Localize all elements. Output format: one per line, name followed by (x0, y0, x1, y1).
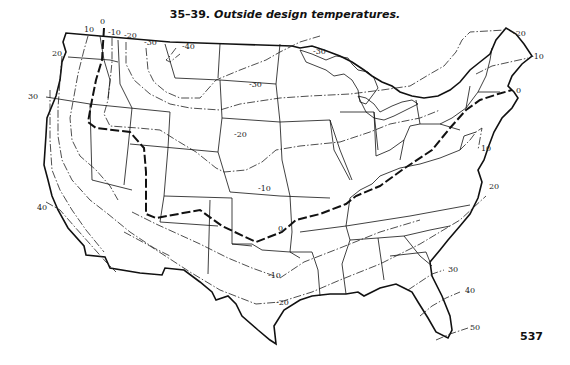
isotherm-20-west (58, 56, 170, 256)
isotherm-30-east (408, 270, 444, 290)
isotherm-label: 30 (28, 92, 38, 101)
state-boundaries (46, 36, 500, 296)
isotherm-label: 20 (52, 49, 62, 58)
isotherm-label: 40 (465, 286, 475, 295)
isotherm-40-west (46, 202, 116, 272)
isotherm-label: 50 (470, 323, 480, 332)
isotherm-label: 40 (37, 203, 47, 212)
isotherm-label: -10 (268, 271, 281, 280)
isotherm-label: -30 (249, 80, 262, 89)
isotherm-label: 10 (84, 25, 94, 34)
isotherm-label: -30 (144, 38, 157, 47)
isotherm-label: -40 (182, 42, 195, 51)
page-number: 537 (520, 330, 543, 343)
isotherm-40-east (420, 292, 460, 316)
isotherm-neg10-south (132, 212, 420, 278)
isotherm-neg10-west (104, 38, 440, 172)
isotherm-label: -10 (531, 52, 544, 61)
isotherm-label: 20 (489, 182, 499, 191)
isotherm-label: 0 (516, 86, 521, 95)
isotherm-label: -10 (258, 184, 271, 193)
isotherm-label: 10 (481, 144, 491, 153)
isotherm-label: 30 (448, 265, 458, 274)
isotherm-label: -10 (108, 28, 121, 37)
isotherm-label: 0 (278, 224, 283, 233)
isotherm-0 (88, 28, 512, 242)
isotherm-label: -20 (124, 31, 137, 40)
isotherm-label: -20 (276, 298, 289, 307)
isotherm-label: -20 (234, 130, 247, 139)
isotherm-label: 0 (100, 17, 105, 26)
isotherm-label: -20 (513, 29, 526, 38)
us-isotherm-map: 0 10 -10 -20 -30 -40 20 30 -30 -30 -20 -… (0, 0, 570, 365)
isotherm-label: -30 (313, 47, 326, 56)
